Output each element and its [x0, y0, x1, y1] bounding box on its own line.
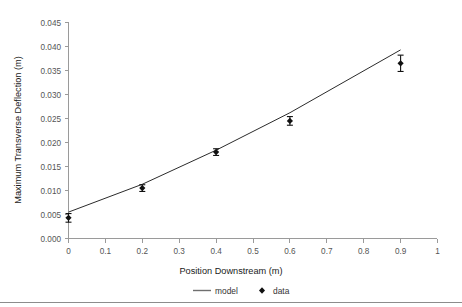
x-axis-title: Position Downstream (m) [179, 266, 282, 276]
legend-label-data: data [273, 286, 290, 296]
legend-label-model: model [215, 286, 238, 296]
x-tick-label: 0.5 [247, 247, 259, 256]
x-tick-label: 0.3 [174, 247, 186, 256]
y-tick-label: 0.020 [41, 139, 62, 148]
y-axis-title: Maximum Transverse Deflection (m) [13, 56, 23, 204]
y-tick-label: 0.025 [41, 115, 62, 124]
y-tick-label: 0.005 [41, 211, 62, 220]
y-tick-label: 0.000 [41, 235, 62, 244]
y-tick-label: 0.015 [41, 163, 62, 172]
y-tick-label: 0.045 [41, 19, 62, 28]
x-tick-label: 0.6 [284, 247, 296, 256]
deflection-scatter-chart: 0.045 0.040 0.035 0.030 0.025 0.020 0.01… [0, 0, 462, 307]
x-tick-label: 0.7 [321, 247, 333, 256]
chart-background [0, 0, 462, 307]
x-tick-label: 0.4 [210, 247, 222, 256]
y-tick-label: 0.010 [41, 187, 62, 196]
x-tick-label: 0 [66, 247, 71, 256]
chart-figure: 0.045 0.040 0.035 0.030 0.025 0.020 0.01… [0, 0, 462, 307]
x-tick-label: 0.1 [100, 247, 112, 256]
x-tick-label: 0.8 [358, 247, 370, 256]
x-tick-label: 1 [435, 247, 440, 256]
y-tick-label: 0.035 [41, 67, 62, 76]
x-tick-label: 0.2 [137, 247, 149, 256]
y-tick-label: 0.040 [41, 43, 62, 52]
x-tick-label: 0.9 [395, 247, 407, 256]
y-tick-label: 0.030 [41, 91, 62, 100]
